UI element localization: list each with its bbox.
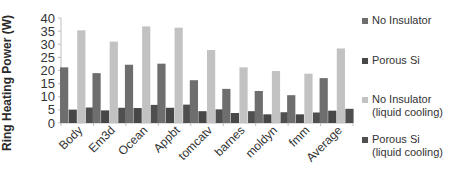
legend-item-porous-si: Porous Si	[362, 54, 420, 67]
legend-swatch	[362, 137, 368, 143]
bar	[222, 89, 230, 123]
bar	[345, 109, 353, 123]
bar	[239, 67, 247, 123]
legend-label: No Insulator	[372, 14, 431, 27]
bar	[231, 113, 239, 123]
y-axis-title-text: Ring Heating Power (W)	[0, 15, 14, 151]
x-tick-label: Ocean	[115, 123, 150, 158]
bar	[92, 73, 100, 123]
legend-label: Porous Si (liquid cooling)	[372, 133, 443, 159]
x-tick-label: Body	[56, 123, 85, 152]
x-tick-label: Em3d	[86, 123, 118, 155]
bar	[255, 91, 263, 123]
legend-label: Porous Si	[372, 54, 420, 67]
bar	[77, 30, 85, 123]
bar	[110, 42, 118, 123]
bar	[272, 71, 280, 123]
bar	[134, 108, 142, 123]
y-tick-label: 5	[48, 102, 55, 117]
bar-group-fmm	[287, 74, 321, 123]
bar	[190, 80, 198, 123]
bar-group-barnes	[222, 67, 256, 123]
bar	[101, 110, 109, 123]
legend-swatch	[362, 97, 368, 103]
y-tick-label: 20	[41, 63, 55, 78]
legend-swatch	[362, 18, 368, 24]
x-tick-label: barnes	[212, 123, 248, 159]
bar	[69, 110, 77, 123]
legend-label: No Insulator (liquid cooling)	[372, 93, 443, 119]
x-tick-label: tomcatv	[176, 123, 216, 163]
bar	[328, 111, 336, 123]
y-tick-label: 0	[48, 116, 55, 131]
bar	[60, 67, 68, 123]
bar	[207, 50, 215, 123]
bar	[296, 114, 304, 123]
legend-item-porous-si-liquid-cooling: Porous Si (liquid cooling)	[362, 133, 443, 159]
legend-item-no-insulator-liquid-cooling: No Insulator (liquid cooling)	[362, 93, 443, 119]
bar	[263, 114, 271, 123]
bar-group-average	[320, 48, 354, 123]
bar-group-appbt	[157, 28, 191, 123]
legend-item-no-insulator: No Insulator	[362, 14, 431, 27]
bar	[304, 74, 312, 123]
bar-group-moldyn	[255, 71, 289, 123]
bar-group-body	[60, 30, 94, 123]
bar	[287, 95, 295, 123]
bar	[157, 64, 165, 123]
bar-group-tomcatv	[190, 50, 224, 123]
x-tick-label: fmm	[286, 123, 312, 149]
bar	[198, 111, 206, 123]
bar	[175, 28, 183, 123]
y-tick-label: 15	[41, 76, 55, 91]
bar-group-em3d	[92, 42, 126, 123]
bar-chart: 0510152025303540BodyEm3dOceanAppbttomcat…	[0, 0, 456, 174]
bar	[125, 65, 133, 123]
y-tick-label: 30	[41, 37, 55, 52]
legend-swatch	[362, 58, 368, 64]
x-tick-label: Average	[304, 123, 346, 165]
bar	[166, 108, 174, 123]
y-tick-label: 40	[41, 11, 55, 26]
y-tick-label: 10	[41, 89, 55, 104]
bar	[142, 26, 150, 123]
bar-group-ocean	[125, 26, 159, 123]
x-tick-label: moldyn	[243, 123, 280, 160]
y-tick-label: 25	[41, 50, 55, 65]
bar	[337, 48, 345, 123]
bar	[320, 78, 328, 123]
y-tick-label: 35	[41, 24, 55, 39]
